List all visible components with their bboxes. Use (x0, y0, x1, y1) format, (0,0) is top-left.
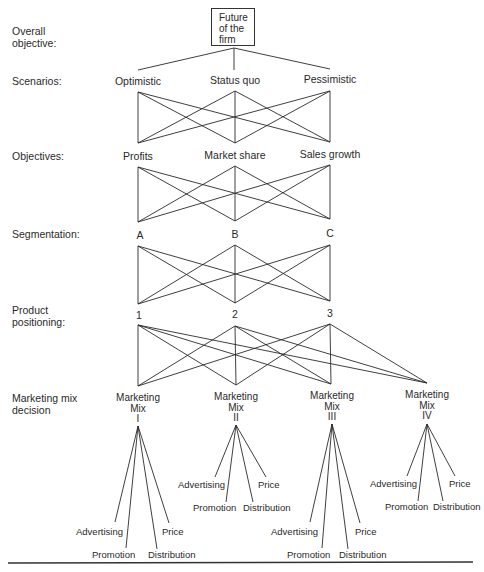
bottom-rule (8, 562, 473, 563)
node-segment-c: C (326, 227, 334, 239)
leaf-mm4-distribution: Distribution (433, 501, 481, 513)
leaf-mm3-advertising: Advertising (271, 526, 318, 538)
node-marketing-mix-2: MarketingMixII (214, 392, 258, 424)
node-objective-sales-growth: Sales growth (300, 148, 361, 160)
leaf-mm2-distribution: Distribution (243, 502, 291, 514)
row-label-segmentation: Segmentation: (12, 228, 80, 240)
leaf-mm1-promotion: Promotion (92, 549, 135, 561)
node-scenario-pessimistic: Pessimistic (304, 73, 357, 85)
node-scenario-status-quo: Status quo (210, 74, 260, 86)
row-label-marketing-mix: Marketing mix decision (12, 392, 77, 416)
row-label-mm-line1: Marketing mix (12, 392, 77, 404)
node-marketing-mix-4: MarketingMixIV (405, 390, 449, 422)
node-position-3: 3 (327, 307, 333, 319)
node-marketing-mix-1: MarketingMixI (116, 393, 160, 425)
leaf-mm2-price: Price (258, 479, 280, 491)
node-scenario-optimistic: Optimistic (115, 75, 161, 87)
node-marketing-mix-3: MarketingMixIII (310, 391, 354, 423)
leaf-mm4-price: Price (449, 478, 471, 490)
row-label-overall: Overall objective: (12, 25, 56, 49)
row-label-mm-line2: decision (12, 404, 51, 416)
leaf-mm2-promotion: Promotion (193, 502, 236, 514)
leaf-mm4-promotion: Promotion (385, 501, 428, 513)
box-line-2: of the (219, 23, 254, 34)
overall-objective-box: Future of the firm (211, 8, 255, 46)
leaf-mm1-advertising: Advertising (76, 526, 123, 538)
row-label-positioning-line1: Product (12, 304, 48, 316)
leaf-mm1-price: Price (162, 526, 184, 538)
box-line-1: Future (219, 12, 254, 23)
row-label-overall-line1: Overall (12, 25, 45, 37)
row-label-scenarios: Scenarios: (12, 75, 62, 87)
node-objective-profits: Profits (123, 150, 153, 162)
leaf-mm1-distribution: Distribution (148, 549, 196, 561)
leaf-mm2-advertising: Advertising (178, 479, 225, 491)
leaf-mm4-advertising: Advertising (370, 478, 417, 490)
node-position-2: 2 (232, 308, 238, 320)
box-line-3: firm (219, 34, 254, 45)
leaf-mm3-promotion: Promotion (287, 549, 330, 561)
row-label-objectives: Objectives: (12, 150, 64, 162)
leaf-mm3-distribution: Distribution (339, 549, 387, 561)
leaf-mm3-price: Price (355, 526, 377, 538)
row-label-positioning: Product positioning: (12, 304, 65, 328)
row-label-positioning-line2: positioning: (12, 316, 65, 328)
node-segment-a: A (136, 229, 143, 241)
node-objective-market-share: Market share (204, 149, 265, 161)
row-label-overall-line2: objective: (12, 37, 56, 49)
node-segment-b: B (231, 228, 238, 240)
node-position-1: 1 (136, 309, 142, 321)
